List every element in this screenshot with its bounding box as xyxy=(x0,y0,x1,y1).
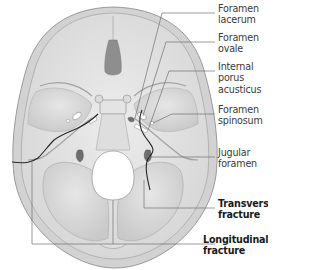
label-internal-porus-acusticus: Internal porus acusticus xyxy=(218,61,261,95)
label-transverse-fracture: Transverse fracture xyxy=(218,198,268,221)
label-text: Foramen xyxy=(218,32,259,43)
label-text: Jugular xyxy=(218,147,257,158)
label-text: porus xyxy=(218,72,261,83)
label-text: spinosum xyxy=(218,115,263,126)
label-text: foramen xyxy=(218,158,257,169)
foramen-spinosum-left xyxy=(66,120,70,123)
label-text: Internal xyxy=(218,61,261,72)
clivus xyxy=(96,114,130,150)
label-text: Longitudinal xyxy=(203,234,268,245)
sella-turcica xyxy=(100,100,126,114)
label-text: acusticus xyxy=(218,84,261,95)
label-text: ovale xyxy=(218,43,259,54)
label-text: Transverse xyxy=(218,198,268,209)
label-text: fracture xyxy=(203,245,268,256)
label-longitudinal-fracture: Longitudinal fracture xyxy=(203,234,268,257)
label-text: lacerum xyxy=(218,14,259,25)
label-text: Foramen xyxy=(218,104,263,115)
label-text: fracture xyxy=(218,209,268,220)
foramen-magnum xyxy=(92,151,134,200)
label-foramen-spinosum: Foramen spinosum xyxy=(218,104,263,127)
label-foramen-lacerum: Foramen lacerum xyxy=(218,3,259,26)
label-jugular-foramen: Jugular foramen xyxy=(218,147,257,170)
label-foramen-ovale: Foramen ovale xyxy=(218,32,259,55)
label-text: Foramen xyxy=(218,3,259,14)
